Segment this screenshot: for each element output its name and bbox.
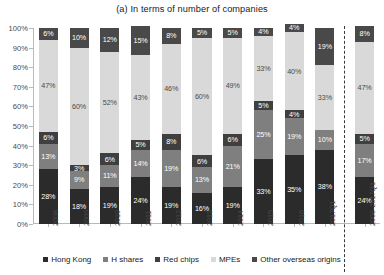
bar-segment[interactable]: 40%	[285, 32, 304, 110]
chart-legend: Hong KongH sharesRed chipsMPEsOther over…	[0, 255, 384, 264]
legend-item[interactable]: Other overseas origins	[252, 255, 340, 264]
bar-segment-label: 4%	[289, 111, 299, 118]
legend-swatch-icon	[155, 257, 160, 262]
bar-segment[interactable]: 19%	[315, 28, 334, 65]
bar-segment[interactable]: 25%	[254, 110, 273, 159]
y-axis-tick-label: 90%	[0, 43, 28, 52]
bar-segment[interactable]: 6%	[39, 132, 58, 144]
bar-segment[interactable]: 8%	[162, 134, 181, 150]
bar-segment[interactable]: 15%	[131, 26, 150, 55]
bar-segment-label: 14%	[133, 160, 147, 167]
bar-segment[interactable]: 47%	[355, 42, 374, 134]
bar-segment[interactable]: 5%	[192, 28, 211, 38]
bar-column[interactable]: 38%10%33%19%	[315, 28, 334, 224]
bar-segment[interactable]: 9%	[70, 171, 89, 189]
bar-segment[interactable]: 33%	[254, 36, 273, 101]
legend-item[interactable]: H shares	[103, 255, 143, 264]
bar-column[interactable]: 28%13%6%47%6%	[39, 28, 58, 224]
bar-segment[interactable]: 52%	[100, 52, 119, 154]
bar-column[interactable]: 16%13%6%60%5%	[192, 28, 211, 224]
bar-segment[interactable]: 8%	[355, 26, 374, 42]
bar-column[interactable]: 19%21%6%49%5%	[223, 28, 242, 224]
bar-segment[interactable]: 43%	[131, 55, 150, 139]
bar-segment-label: 8%	[360, 30, 370, 37]
bar-segment[interactable]: 4%	[254, 28, 273, 36]
bar-segment[interactable]: 5%	[355, 134, 374, 144]
bar-segment[interactable]: 60%	[192, 38, 211, 156]
bar-segment[interactable]: 17%	[355, 144, 374, 177]
bar-segment-label: 5%	[360, 135, 370, 142]
legend-item[interactable]: Hong Kong	[43, 255, 91, 264]
x-axis-tick	[202, 224, 203, 227]
bar-segment[interactable]: 13%	[39, 144, 58, 169]
bar-segment-label: 52%	[103, 99, 117, 106]
bar-segment[interactable]: 60%	[70, 48, 89, 166]
bar-segment-label: 5%	[197, 29, 207, 36]
bar-segment-label: 19%	[164, 202, 178, 209]
x-axis-tick	[48, 224, 49, 227]
bar-segment[interactable]: 49%	[223, 38, 242, 134]
bar-segment-label: 40%	[287, 68, 301, 75]
x-axis-label: 2009	[82, 210, 91, 226]
bar-segment[interactable]: 11%	[100, 165, 119, 187]
bar-segment-label: 19%	[226, 202, 240, 209]
bar-segment[interactable]: 10%	[315, 130, 334, 150]
bar-segment[interactable]: 14%	[131, 150, 150, 177]
bar-segment[interactable]: 19%	[162, 150, 181, 187]
x-axis-tick	[110, 224, 111, 227]
bar-column[interactable]: 19%19%8%46%8%	[162, 28, 181, 224]
bar-segment-label: 17%	[358, 157, 372, 164]
bar-segment-label: 15%	[133, 37, 147, 44]
bar-segment-label: 60%	[195, 93, 209, 100]
bar-segment[interactable]: 5%	[223, 28, 242, 38]
bar-segment-label: 19%	[318, 43, 332, 50]
bar-segment[interactable]: 4%	[285, 24, 304, 32]
bar-column[interactable]: 18%9%3%60%10%	[70, 28, 89, 224]
bar-segment-label: 13%	[41, 153, 55, 160]
bar-segment[interactable]: 6%	[100, 153, 119, 165]
bar-segment[interactable]: 8%	[162, 28, 181, 44]
bar-segment[interactable]: 21%	[223, 146, 242, 187]
y-axis-tick-label: 70%	[0, 82, 28, 91]
bars-layer: 28%13%6%47%6%18%9%3%60%10%19%11%6%52%12%…	[33, 28, 380, 224]
bar-segment-label: 9%	[74, 176, 84, 183]
bar-segment[interactable]: 12%	[100, 28, 119, 52]
bar-column[interactable]: 35%19%4%40%4%	[285, 28, 304, 224]
x-axis-tick	[79, 224, 80, 227]
bar-segment[interactable]: 5%	[254, 101, 273, 111]
bar-segment[interactable]: 6%	[223, 134, 242, 146]
bar-segment-label: 5%	[135, 141, 145, 148]
bar-segment[interactable]: 3%	[70, 165, 89, 171]
bar-segment-label: 33%	[256, 188, 270, 195]
bar-column[interactable]: 24%14%5%43%15%	[131, 28, 150, 224]
x-axis-tick	[294, 224, 295, 227]
bar-column[interactable]: 33%25%5%33%4%	[254, 28, 273, 224]
bar-segment-label: 8%	[166, 32, 176, 39]
bar-segment[interactable]: 4%	[285, 110, 304, 118]
x-axis-label: 2014	[236, 210, 245, 226]
bar-segment-label: 24%	[133, 197, 147, 204]
bar-segment-label: 6%	[228, 136, 238, 143]
plot-area: 0%10%20%30%40%50%60%70%80%90%100% 28%13%…	[33, 28, 380, 224]
bar-segment-label: 33%	[318, 94, 332, 101]
bar-segment[interactable]: 6%	[192, 155, 211, 167]
legend-label: H shares	[111, 255, 143, 264]
bar-segment-label: 19%	[164, 165, 178, 172]
bar-segment[interactable]: 33%	[315, 65, 334, 130]
bar-segment[interactable]: 13%	[192, 167, 211, 192]
legend-item[interactable]: MPEs	[211, 255, 240, 264]
bar-segment-label: 6%	[43, 134, 53, 141]
bar-segment[interactable]: 19%	[285, 118, 304, 155]
bar-segment[interactable]: 5%	[131, 140, 150, 150]
bar-segment-label: 4%	[289, 24, 299, 31]
bar-column[interactable]: 19%11%6%52%12%	[100, 28, 119, 224]
bar-segment[interactable]: 47%	[39, 40, 58, 132]
bar-segment[interactable]: 10%	[70, 28, 89, 48]
bar-segment[interactable]: 6%	[39, 28, 58, 40]
bar-segment[interactable]: 46%	[162, 44, 181, 134]
bar-segment-label: 5%	[228, 29, 238, 36]
legend-label: Hong Kong	[51, 255, 91, 264]
y-axis-tick-label: 0%	[0, 220, 28, 229]
legend-item[interactable]: Red chips	[155, 255, 199, 264]
bar-segment-label: 5%	[258, 102, 268, 109]
